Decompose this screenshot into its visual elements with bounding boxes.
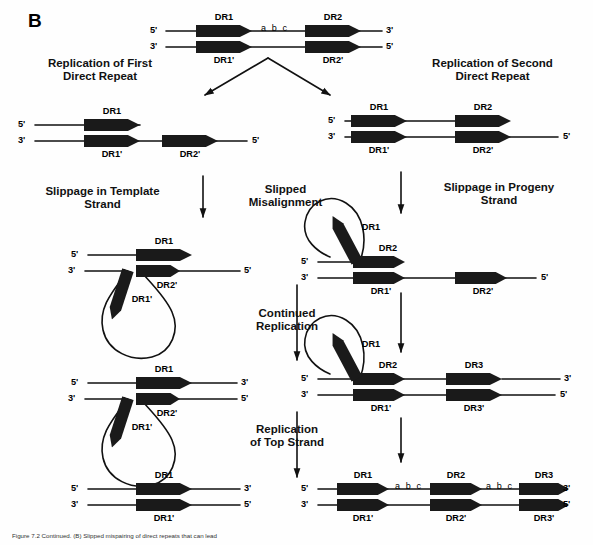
end-label-5prime: 5'	[241, 393, 248, 403]
repeat-block-dr2p	[430, 499, 482, 511]
repeat-block-dr3	[519, 483, 569, 495]
repeat-label-dr2-prime: DR2'	[137, 408, 197, 418]
repeat-label-dr2-prime: DR2'	[426, 513, 486, 523]
repeat-label-dr1-prime: DR1'	[351, 286, 411, 296]
end-label-3prime: 3'	[386, 25, 393, 35]
repeat-label-dr1-prime: DR1'	[333, 513, 393, 523]
end-label-5prime: 5'	[244, 499, 251, 509]
repeat-label-dr3: DR3	[444, 360, 504, 370]
step-replication-first: Replication of First Direct Repeat	[10, 57, 190, 83]
step-slippage-template: Slippage in Template Strand	[15, 185, 190, 211]
repeat-block-dr1p	[351, 131, 407, 143]
repeat-label-dr1: DR1	[333, 470, 393, 480]
end-label-3prime: 3'	[150, 41, 157, 51]
repeat-block-dr1p	[353, 389, 405, 401]
end-label-5prime: 5'	[244, 265, 251, 275]
repeat-block-dr1p	[196, 41, 252, 53]
repeat-block-dr2p	[136, 393, 180, 405]
repeat-label-dr2-prime: DR2'	[160, 149, 220, 159]
repeat-label-dr1: DR1	[349, 102, 409, 112]
panel-letter: B	[28, 10, 42, 32]
end-label-5prime: 5'	[301, 373, 308, 383]
repeat-block-dr2	[430, 483, 482, 495]
end-label-5prime: 5'	[328, 115, 335, 125]
end-label-5prime: 5'	[71, 377, 78, 387]
end-label-5prime: 5'	[301, 483, 308, 493]
repeat-label-dr1: DR1	[194, 12, 254, 22]
repeat-block-dr1	[337, 483, 389, 495]
repeat-label-dr1-prime: DR1'	[134, 513, 194, 523]
repeat-block-dr1p	[136, 499, 192, 511]
repeat-label-dr2-prime: DR2'	[453, 145, 513, 155]
repeat-block-dr2p	[162, 135, 218, 147]
repeat-label-dr1: DR1	[82, 106, 142, 116]
end-label-5prime: 5'	[71, 483, 78, 493]
spacer-label-abc: a b c	[395, 481, 423, 491]
end-label-3prime: 3'	[301, 389, 308, 399]
repeat-label-dr1-prime: DR1'	[112, 422, 172, 432]
repeat-block-dr2p	[136, 265, 180, 277]
end-label-5prime: 5'	[252, 135, 259, 145]
step-slippage-progeny: Slippage in Progeny Strand	[414, 181, 584, 207]
end-label-5prime: 5'	[563, 499, 570, 509]
end-label-3prime: 3'	[68, 265, 75, 275]
repeat-label-dr1: DR1	[134, 470, 194, 480]
repeat-block-dr2p	[305, 41, 361, 53]
repeat-label-dr1: DR1	[341, 222, 401, 232]
repeat-label-dr3: DR3	[514, 470, 574, 480]
end-label-3prime: 3'	[563, 483, 570, 493]
repeat-label-dr2: DR2	[358, 360, 418, 370]
end-label-3prime: 3'	[564, 373, 571, 383]
repeat-block-dr1p	[353, 272, 405, 284]
repeat-label-dr1: DR1	[341, 339, 401, 349]
repeat-block-dr1p	[337, 499, 389, 511]
repeat-block-dr2p	[455, 131, 511, 143]
end-label-5prime: 5'	[563, 131, 570, 141]
step-replication-second: Replication of Second Direct Repeat	[400, 57, 585, 83]
end-label-5prime: 5'	[18, 119, 25, 129]
end-label-3prime: 3'	[301, 499, 308, 509]
end-label-3prime: 3'	[244, 483, 251, 493]
repeat-label-dr1: DR1	[134, 364, 194, 374]
repeat-block-dr2	[455, 115, 511, 127]
end-label-3prime: 3'	[328, 131, 335, 141]
step-slipped-misalignment: Slipped Misalignment	[228, 183, 343, 209]
repeat-block-dr1	[196, 25, 252, 37]
repeat-block-dr1	[351, 115, 407, 127]
repeat-block-dr2	[305, 25, 361, 37]
end-label-5prime: 5'	[301, 256, 308, 266]
end-label-3prime: 3'	[68, 393, 75, 403]
repeat-label-dr3-prime: DR3'	[514, 513, 574, 523]
spacer-label-abc: a b c	[261, 23, 289, 33]
repeat-block-dr2p	[455, 272, 507, 284]
repeat-label-dr1-prime: DR1'	[112, 294, 172, 304]
repeat-label-dr2-prime: DR2'	[303, 55, 363, 65]
repeat-block-dr1	[136, 483, 192, 495]
repeat-label-dr2: DR2	[303, 12, 363, 22]
end-label-5prime: 5'	[150, 25, 157, 35]
repeat-label-dr2-prime: DR2'	[453, 286, 513, 296]
repeat-block-dr3p	[519, 499, 569, 511]
end-label-5prime: 5'	[71, 249, 78, 259]
repeat-block-dr1	[136, 377, 192, 389]
end-label-3prime: 3'	[18, 135, 25, 145]
spacer-label-abc: a b c	[486, 481, 514, 491]
step-continued-replication: Continued Replication	[228, 307, 346, 333]
figure-panel-b: B Replication of First Direct Repeat Rep…	[0, 0, 593, 545]
repeat-label-dr1-prime: DR1'	[194, 55, 254, 65]
repeat-label-dr1-prime: DR1'	[82, 149, 142, 159]
repeat-label-dr2: DR2	[426, 470, 486, 480]
end-label-5prime: 5'	[386, 41, 393, 51]
stage-left-1	[35, 125, 247, 141]
end-label-3prime: 3'	[301, 272, 308, 282]
repeat-label-dr2: DR2	[358, 243, 418, 253]
repeat-block-dr1	[136, 249, 192, 261]
end-label-3prime: 3'	[71, 499, 78, 509]
end-label-5prime: 5'	[560, 389, 567, 399]
end-label-3prime: 3'	[241, 377, 248, 387]
repeat-label-dr2-prime: DR2'	[137, 280, 197, 290]
figure-caption: Figure 7.2 Continued. (B) Slipped mispai…	[12, 532, 512, 539]
step-replication-top-strand: Replication of Top Strand	[228, 423, 346, 449]
repeat-label-dr2: DR2	[453, 102, 513, 112]
repeat-block-dr1-looped	[327, 330, 362, 382]
